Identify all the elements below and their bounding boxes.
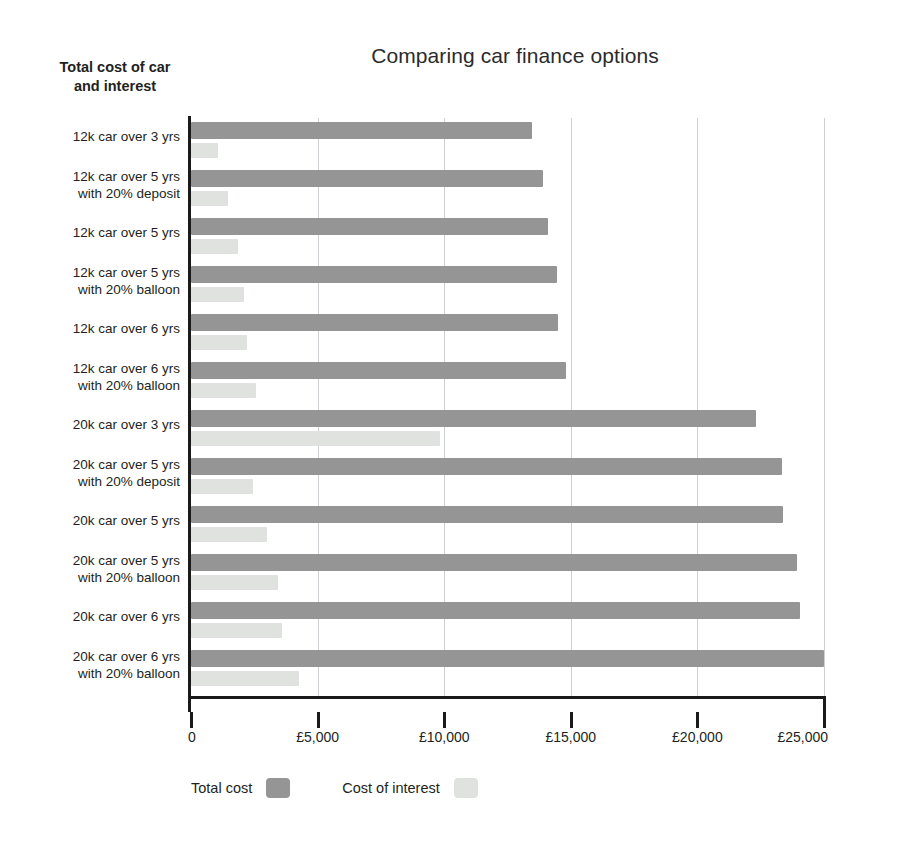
bar-total-cost: [191, 506, 783, 523]
bar-total-cost: [191, 458, 782, 475]
category-label: 12k car over 3 yrs: [30, 128, 180, 145]
bar-group: [191, 646, 824, 694]
category-label-line-1: 20k car over 6 yrs: [73, 609, 180, 624]
x-axis-tick-label: £20,000: [672, 729, 723, 745]
bar-total-cost: [191, 602, 800, 619]
category-label-line-1: 12k car over 5 yrs: [73, 265, 180, 280]
bar-total-cost: [191, 650, 824, 667]
x-axis-tick-label: £25,000: [777, 729, 828, 745]
category-label: 20k car over 5 yrswith 20% deposit: [30, 456, 180, 490]
bar-group: [191, 406, 824, 454]
category-label-line-2: with 20% balloon: [30, 377, 180, 394]
category-label-line-1: 12k car over 5 yrs: [73, 169, 180, 184]
category-label-line-1: 20k car over 3 yrs: [73, 417, 180, 432]
category-label-line-2: with 20% balloon: [30, 665, 180, 682]
bar-chart: Comparing car finance options Total cost…: [0, 0, 903, 855]
y-axis-title: Total cost of car and interest: [40, 58, 190, 96]
legend-item[interactable]: Cost of interest: [342, 778, 478, 798]
bar-cost-of-interest: [191, 383, 256, 398]
x-axis-cap-left: [188, 696, 191, 712]
bar-cost-of-interest: [191, 575, 278, 590]
bar-cost-of-interest: [191, 527, 267, 542]
legend-swatch-total-cost: [266, 778, 290, 798]
category-label-line-1: 20k car over 5 yrs: [73, 513, 180, 528]
x-axis-tick: [823, 712, 826, 728]
category-label-line-2: with 20% deposit: [30, 473, 180, 490]
category-label: 20k car over 6 yrs: [30, 608, 180, 625]
bar-total-cost: [191, 410, 756, 427]
x-axis-tick: [190, 712, 193, 728]
x-axis-tick: [696, 712, 699, 728]
bar-group: [191, 454, 824, 502]
category-label: 12k car over 6 yrswith 20% balloon: [30, 360, 180, 394]
bar-group: [191, 310, 824, 358]
x-axis-cap-right: [823, 696, 826, 712]
bar-group: [191, 598, 824, 646]
bar-cost-of-interest: [191, 479, 253, 494]
bar-total-cost: [191, 218, 548, 235]
legend-label: Cost of interest: [342, 780, 440, 796]
y-axis-title-line-1: Total cost of car: [60, 59, 171, 75]
bar-total-cost: [191, 170, 543, 187]
category-label: 12k car over 5 yrswith 20% deposit: [30, 168, 180, 202]
x-axis-tick: [443, 712, 446, 728]
bar-group: [191, 550, 824, 598]
chart-legend: Total costCost of interest: [191, 778, 478, 798]
bar-group: [191, 502, 824, 550]
bar-cost-of-interest: [191, 671, 299, 686]
category-label: 20k car over 5 yrswith 20% balloon: [30, 552, 180, 586]
bar-group: [191, 358, 824, 406]
category-label-line-1: 20k car over 5 yrs: [73, 553, 180, 568]
bar-cost-of-interest: [191, 191, 228, 206]
category-label-line-1: 20k car over 5 yrs: [73, 457, 180, 472]
bar-group: [191, 118, 824, 166]
x-axis-line: [188, 696, 826, 699]
chart-title: Comparing car finance options: [280, 44, 750, 68]
bar-cost-of-interest: [191, 335, 247, 350]
category-label-line-1: 12k car over 5 yrs: [73, 225, 180, 240]
y-axis-title-line-2: and interest: [40, 77, 190, 96]
bar-total-cost: [191, 266, 557, 283]
category-label-line-1: 12k car over 3 yrs: [73, 129, 180, 144]
bar-group: [191, 166, 824, 214]
legend-label: Total cost: [191, 780, 252, 796]
bar-cost-of-interest: [191, 239, 238, 254]
x-axis-tick: [570, 712, 573, 728]
x-axis-tick: [317, 712, 320, 728]
bar-cost-of-interest: [191, 431, 440, 446]
bar-group: [191, 262, 824, 310]
bar-cost-of-interest: [191, 143, 218, 158]
x-axis-tick-label: £15,000: [545, 729, 596, 745]
category-label-line-1: 12k car over 6 yrs: [73, 321, 180, 336]
category-label: 12k car over 6 yrs: [30, 320, 180, 337]
bar-cost-of-interest: [191, 623, 282, 638]
x-axis-tick-label: £10,000: [419, 729, 470, 745]
category-label: 12k car over 5 yrswith 20% balloon: [30, 264, 180, 298]
category-label-line-1: 20k car over 6 yrs: [73, 649, 180, 664]
x-axis-tick-label: 0: [188, 729, 196, 745]
plot-area: [191, 118, 824, 696]
bar-group: [191, 214, 824, 262]
bar-total-cost: [191, 554, 797, 571]
category-label-line-2: with 20% deposit: [30, 185, 180, 202]
bar-total-cost: [191, 122, 532, 139]
category-label: 20k car over 5 yrs: [30, 512, 180, 529]
category-label-line-2: with 20% balloon: [30, 569, 180, 586]
category-label: 20k car over 3 yrs: [30, 416, 180, 433]
category-label-line-2: with 20% balloon: [30, 281, 180, 298]
bar-total-cost: [191, 362, 566, 379]
bar-total-cost: [191, 314, 558, 331]
legend-item[interactable]: Total cost: [191, 778, 290, 798]
category-label: 20k car over 6 yrswith 20% balloon: [30, 648, 180, 682]
gridline: [824, 118, 825, 696]
category-label-line-1: 12k car over 6 yrs: [73, 361, 180, 376]
bar-cost-of-interest: [191, 287, 244, 302]
category-label: 12k car over 5 yrs: [30, 224, 180, 241]
x-axis-tick-label: £5,000: [296, 729, 339, 745]
legend-swatch-cost-of-interest: [454, 778, 478, 798]
